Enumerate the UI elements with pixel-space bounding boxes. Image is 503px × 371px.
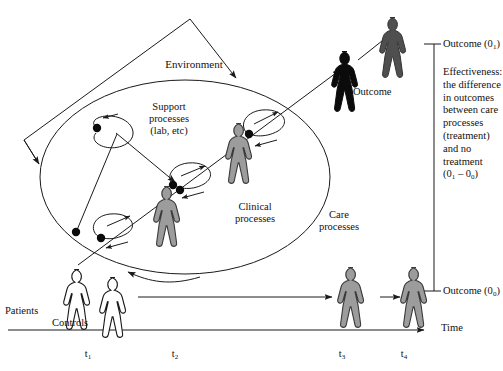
effectiveness-formula: (01 – 00) — [443, 168, 503, 182]
support-processes-line-3: (lab, etc) — [126, 125, 212, 137]
clinical-processes-line-2: processes — [215, 213, 295, 225]
process-node — [169, 181, 177, 189]
time-tick-2: t2 — [163, 348, 187, 362]
control-outcome-figure-t4 — [401, 268, 427, 328]
effectiveness-text: Effectiveness: the difference in outcome… — [443, 66, 503, 182]
outcome-label: Outcome — [353, 86, 392, 98]
effectiveness-line-7: and no — [443, 143, 503, 156]
effectiveness-line-4: between care — [443, 104, 503, 117]
care-processes-label: Care processes — [303, 209, 375, 233]
support-processes-label: Support processes (lab, etc) — [126, 101, 212, 137]
process-loop-lower-left — [93, 214, 132, 248]
outcome-1-label: Outcome (01) — [443, 38, 500, 52]
time-tick-1: t1 — [76, 348, 100, 362]
process-node — [72, 228, 80, 236]
diagram-canvas — [0, 0, 503, 371]
effectiveness-line-8: treatment — [443, 156, 503, 169]
patients-label: Patients — [5, 305, 38, 317]
control-figure — [100, 278, 126, 338]
treated-figure-t2a — [154, 187, 180, 247]
clinical-processes-label: Clinical processes — [215, 201, 295, 225]
process-node — [93, 124, 101, 132]
environment-connector — [24, 19, 236, 164]
control-outcome-figure-t3 — [338, 268, 364, 328]
formula-suffix: ) — [475, 168, 479, 179]
process-node — [245, 130, 253, 138]
process-node — [97, 234, 105, 242]
process-node — [176, 186, 184, 194]
outcome-1-close: ) — [496, 38, 500, 49]
care-processes-line-1: Care — [303, 209, 375, 221]
controls-label: Controls — [52, 317, 88, 329]
care-processes-line-2: processes — [303, 221, 375, 233]
effectiveness-line-1: Effectiveness: — [443, 66, 503, 79]
outcome-0-text: Outcome (0 — [443, 285, 493, 296]
time-tick-3: t3 — [330, 348, 354, 362]
outcome-0-label: Outcome (00) — [443, 285, 500, 299]
time-label: Time — [441, 322, 463, 334]
outcome-figure-final — [380, 18, 406, 78]
support-processes-line-2: processes — [126, 113, 212, 125]
effectiveness-bracket — [424, 44, 434, 291]
effectiveness-line-2: the difference — [443, 79, 503, 92]
formula-prefix: (0 — [443, 168, 452, 179]
effectiveness-line-3: in outcomes — [443, 92, 503, 105]
effectiveness-line-5: processes — [443, 117, 503, 130]
environment-label: Environment — [148, 58, 240, 71]
support-processes-line-1: Support — [126, 101, 212, 113]
process-loop-upper-right — [243, 110, 284, 146]
formula-middle: – 0 — [455, 168, 471, 179]
effectiveness-line-6: (treatment) — [443, 130, 503, 143]
outcome-figure-dark — [332, 52, 358, 112]
time-tick-subscript: 1 — [88, 353, 92, 361]
time-tick-4: t4 — [392, 348, 416, 362]
time-tick-subscript: 3 — [342, 353, 346, 361]
time-tick-subscript: 2 — [175, 353, 179, 361]
clinical-processes-line-1: Clinical — [215, 201, 295, 213]
outcome-1-text: Outcome (0 — [443, 38, 493, 49]
time-tick-subscript: 4 — [404, 353, 408, 361]
outcome-0-close: ) — [496, 285, 500, 296]
